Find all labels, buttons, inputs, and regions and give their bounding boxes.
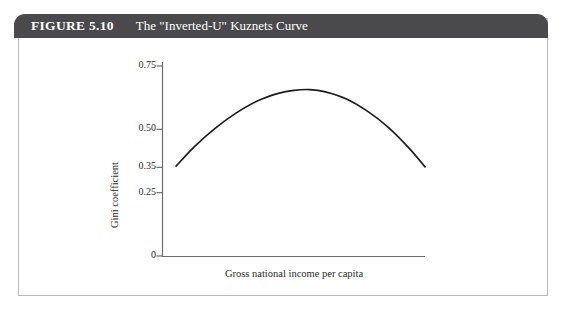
y-axis-label-text: Gini coefficient: [109, 162, 120, 228]
figure-number-label: FIGURE 5.10: [31, 18, 114, 34]
figure-header-bar: FIGURE 5.10 The "Inverted-U" Kuznets Cur…: [14, 14, 548, 38]
x-axis-label: Gross national income per capita: [162, 268, 426, 279]
y-axis-label: Gini coefficient: [97, 0, 108, 108]
y-axis-tick-label: 0: [120, 249, 156, 260]
y-axis-tick-label: 0.25: [120, 186, 156, 197]
y-axis-tick-label: 0.50: [120, 122, 156, 133]
figure-title: The "Inverted-U" Kuznets Curve: [136, 18, 308, 34]
y-axis-tick-label: 0.35: [120, 160, 156, 171]
y-axis-tick-label: 0.75: [120, 59, 156, 70]
